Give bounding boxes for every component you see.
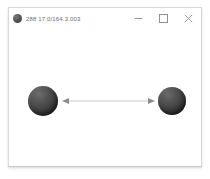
arrowhead-left bbox=[62, 98, 69, 104]
title-bar[interactable]: 288 17.0/164.3.003 bbox=[9, 8, 201, 29]
sphere-right[interactable] bbox=[158, 87, 186, 115]
window-title: 288 17.0/164.3.003 bbox=[26, 14, 126, 24]
close-icon bbox=[183, 13, 194, 24]
app-window: 288 17.0/164.3.003 bbox=[8, 7, 202, 167]
sphere-left[interactable] bbox=[28, 86, 58, 116]
connector-arrow[interactable] bbox=[61, 94, 156, 108]
close-button[interactable] bbox=[176, 8, 201, 29]
minimize-button[interactable] bbox=[126, 8, 151, 29]
arrowhead-right bbox=[148, 98, 155, 104]
maximize-icon bbox=[158, 13, 169, 24]
sphere-icon bbox=[13, 14, 22, 23]
minimize-icon bbox=[133, 13, 144, 24]
window-controls bbox=[126, 8, 201, 29]
viewport-canvas[interactable] bbox=[9, 29, 201, 166]
maximize-button[interactable] bbox=[151, 8, 176, 29]
